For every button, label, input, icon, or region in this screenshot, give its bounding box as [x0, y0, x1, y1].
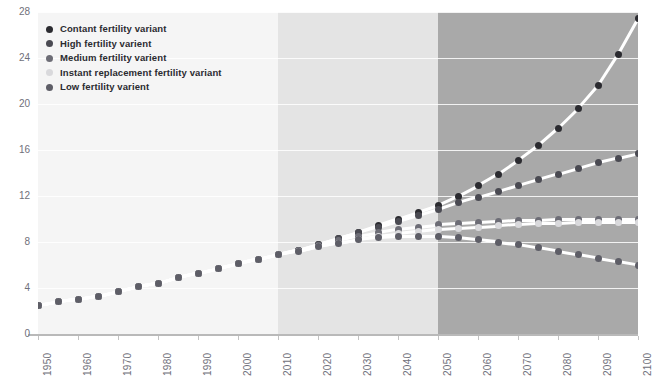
x-tick-label-2020: 2020 [322, 353, 333, 376]
x-tick-mark-1980 [158, 336, 159, 340]
legend-swatch-icon [46, 55, 53, 62]
legend-item-label: Contant fertility variant [60, 24, 167, 34]
x-tick-mark-1990 [198, 336, 199, 340]
y-tick-label-4: 4 [6, 283, 30, 293]
x-tick-label-2030: 2030 [362, 353, 373, 376]
y-tick-label-12: 12 [6, 191, 30, 201]
legend-item-label: Low fertility varient [60, 82, 149, 92]
y-tick-label-28: 28 [6, 7, 30, 17]
x-tick-mark-2060 [478, 336, 479, 340]
legend-item-label: Medium fertility varient [60, 53, 166, 63]
x-tick-label-2090: 2090 [602, 353, 613, 376]
legend-item-low[interactable]: Low fertility varient [46, 80, 222, 95]
x-tick-mark-1970 [118, 336, 119, 340]
legend-swatch-icon [46, 40, 53, 47]
x-tick-mark-1950 [38, 336, 39, 340]
x-tick-label-1980: 1980 [162, 353, 173, 376]
x-tick-mark-2070 [518, 336, 519, 340]
x-tick-mark-2000 [238, 336, 239, 340]
x-tick-mark-2020 [318, 336, 319, 340]
legend-item-constant[interactable]: Contant fertility variant [46, 22, 222, 37]
legend-item-label: Instant replacement fertility variant [60, 68, 222, 78]
legend-item-high[interactable]: High fertility varient [46, 37, 222, 52]
legend: Contant fertility variantHigh fertility … [46, 22, 222, 95]
x-tick-label-1950: 1950 [42, 353, 53, 376]
x-tick-label-2050: 2050 [442, 353, 453, 376]
x-tick-label-2040: 2040 [402, 353, 413, 376]
x-tick-label-1990: 1990 [202, 353, 213, 376]
x-tick-mark-1960 [78, 336, 79, 340]
y-tick-label-20: 20 [6, 99, 30, 109]
y-tick-label-24: 24 [6, 53, 30, 63]
legend-item-label: High fertility varient [60, 39, 151, 49]
legend-swatch-icon [46, 69, 53, 76]
x-tick-label-2080: 2080 [562, 353, 573, 376]
x-tick-label-2100: 2100 [642, 353, 653, 376]
legend-swatch-icon [46, 84, 53, 91]
x-tick-mark-2040 [398, 336, 399, 340]
x-tick-mark-2050 [438, 336, 439, 340]
y-tick-label-16: 16 [6, 145, 30, 155]
x-tick-label-2010: 2010 [282, 353, 293, 376]
x-tick-label-2060: 2060 [482, 353, 493, 376]
x-tick-label-1970: 1970 [122, 353, 133, 376]
legend-item-instant[interactable]: Instant replacement fertility variant [46, 66, 222, 81]
x-tick-label-2000: 2000 [242, 353, 253, 376]
x-tick-mark-2030 [358, 336, 359, 340]
x-tick-mark-2080 [558, 336, 559, 340]
x-tick-mark-2090 [598, 336, 599, 340]
y-tick-label-0: 0 [6, 329, 30, 339]
x-tick-label-1960: 1960 [82, 353, 93, 376]
x-tick-mark-2010 [278, 336, 279, 340]
legend-swatch-icon [46, 26, 53, 33]
x-tick-label-2070: 2070 [522, 353, 533, 376]
legend-item-medium[interactable]: Medium fertility varient [46, 51, 222, 66]
y-tick-label-8: 8 [6, 237, 30, 247]
x-tick-mark-2100 [638, 336, 639, 340]
